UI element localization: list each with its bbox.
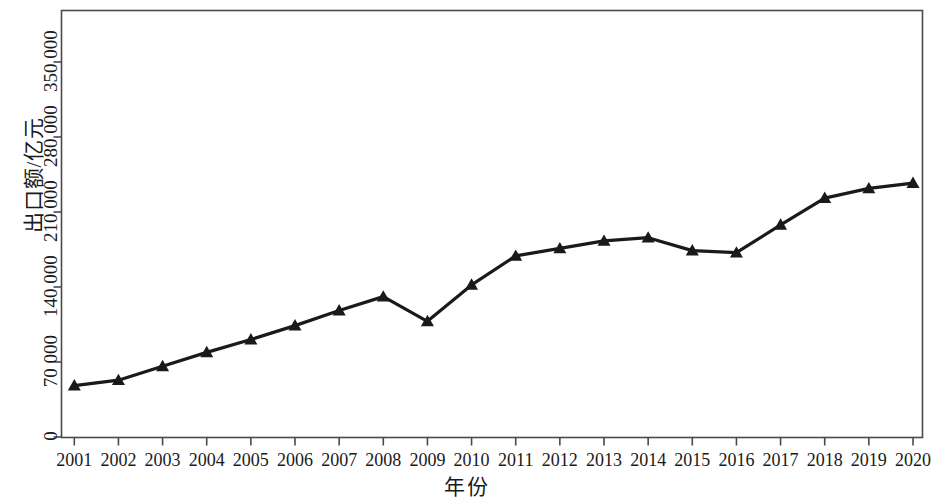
x-axis-tick-label: 2012	[537, 450, 583, 471]
x-axis-tick-label: 2020	[890, 450, 933, 471]
x-axis-tick-label: 2005	[228, 450, 274, 471]
data-series-line	[74, 183, 913, 386]
data-point-marker	[774, 218, 787, 229]
x-axis-tick-label: 2001	[51, 450, 97, 471]
x-axis-tick-label: 2003	[140, 450, 186, 471]
y-axis-tick-label: 350 000	[40, 16, 62, 106]
x-axis-title: 年份	[0, 470, 933, 500]
x-axis-tick-label: 2015	[669, 450, 715, 471]
line-chart-figure: 出口额/亿元 070 000140 000210 000280 000350 0…	[0, 0, 933, 503]
x-axis-tick-label: 2006	[272, 450, 318, 471]
data-point-marker	[377, 290, 390, 301]
x-axis-tick-label: 2011	[493, 450, 539, 471]
x-axis-tick-label: 2007	[316, 450, 362, 471]
x-axis-tick-label: 2004	[184, 450, 230, 471]
plot-area	[0, 0, 933, 503]
x-axis-tick-label: 2008	[360, 450, 406, 471]
plot-frame	[62, 11, 923, 438]
x-axis-tick-label: 2019	[846, 450, 892, 471]
x-axis-tick-label: 2018	[802, 450, 848, 471]
x-axis-ticks	[74, 438, 913, 446]
x-axis-tick-label: 2014	[625, 450, 671, 471]
data-series-markers	[68, 177, 920, 391]
x-axis-tick-label: 2010	[449, 450, 495, 471]
x-axis-tick-label: 2002	[95, 450, 141, 471]
x-axis-tick-label: 2016	[713, 450, 759, 471]
x-axis-tick-label: 2017	[758, 450, 804, 471]
x-axis-tick-label: 2013	[581, 450, 627, 471]
x-axis-tick-label: 2009	[404, 450, 450, 471]
